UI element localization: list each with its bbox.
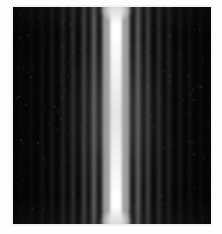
beam-flare-top bbox=[98, 7, 134, 24]
figure-root bbox=[0, 0, 222, 234]
central-maximum-band bbox=[101, 7, 131, 224]
diffraction-pattern-image bbox=[13, 7, 211, 224]
beam-flare-bottom bbox=[98, 207, 134, 224]
diffraction-fringe bbox=[206, 7, 211, 224]
diffraction-fringe bbox=[175, 7, 186, 224]
diffraction-fringe bbox=[37, 7, 48, 224]
diffraction-fringe bbox=[163, 7, 176, 224]
diffraction-fringe bbox=[26, 7, 37, 224]
diffraction-fringe bbox=[185, 7, 196, 224]
diffraction-fringe bbox=[16, 7, 27, 224]
diffraction-fringe bbox=[47, 7, 58, 224]
diffraction-fringe bbox=[196, 7, 207, 224]
